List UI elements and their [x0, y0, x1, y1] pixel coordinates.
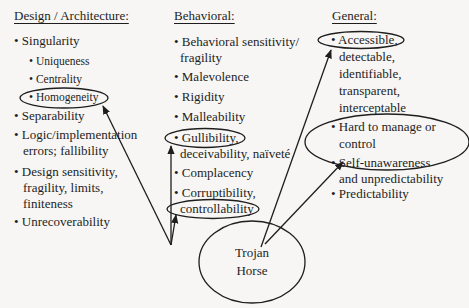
- trojan-horse-label-line1: Trojan: [222, 244, 282, 262]
- item-design-sensitivity-line3: finiteness: [23, 196, 73, 212]
- item-accessible-line2: detectable,: [339, 49, 395, 65]
- item-singularity: • Singularity: [14, 33, 80, 49]
- item-behavioral-sensitivity-line1: • Behavioral sensitivity/: [174, 34, 299, 50]
- item-design-sensitivity-line1: • Design sensitivity,: [14, 164, 118, 180]
- arrow-to-controllability: [171, 215, 176, 245]
- item-separability: • Separability: [14, 108, 85, 124]
- item-gullibility-line1: • Gullibility,: [174, 130, 238, 146]
- item-malevolence: • Malevolence: [174, 69, 249, 85]
- design-architecture-header: Design / Architecture:: [14, 8, 129, 24]
- trojan-horse-label-line2: Horse: [222, 262, 282, 280]
- item-accessible-line5: interceptable: [339, 100, 406, 116]
- item-malleability: • Malleability: [174, 109, 245, 125]
- trojan-horse-node-label: Trojan Horse: [222, 244, 282, 280]
- item-behavioral-sensitivity-line2: fragility: [180, 50, 222, 66]
- item-uniqueness: • Uniqueness: [29, 53, 90, 69]
- item-hard-to-manage-line1: • Hard to manage or: [331, 119, 436, 135]
- item-hard-to-manage-line2: control: [339, 136, 376, 152]
- item-self-unawareness-line1: • Self-unawareness: [331, 155, 431, 171]
- item-accessible-line4: transparent,: [339, 83, 400, 99]
- behavioral-header: Behavioral:: [174, 8, 235, 24]
- item-gullibility-line2: deceivability, naïveté: [180, 146, 290, 162]
- item-logic-implementation-line2: errors; fallibility: [23, 143, 109, 159]
- item-logic-implementation-line1: • Logic/implementation: [14, 127, 137, 143]
- item-predictability: • Predictability: [331, 186, 409, 202]
- item-accessible-line3: identifiable,: [339, 66, 401, 82]
- item-design-sensitivity-line2: fragility, limits,: [23, 180, 103, 196]
- item-homogeneity: • Homogeneity: [29, 89, 99, 105]
- item-accessible-line1: • Accessible,: [331, 32, 398, 48]
- item-rigidity: • Rigidity: [174, 89, 224, 105]
- trojan-horse-vulnerability-diagram: Design / Architecture: • Singularity • U…: [0, 0, 469, 308]
- item-self-unawareness-line2: and unpredictability: [339, 171, 443, 187]
- item-unrecoverability: • Unrecoverability: [14, 214, 110, 230]
- general-header: General:: [332, 8, 377, 24]
- item-centrality: • Centrality: [29, 71, 82, 87]
- item-corruptibility-line2: controllability: [180, 201, 254, 217]
- item-complacency: • Complacency: [174, 165, 253, 181]
- item-corruptibility-line1: • Corruptibility,: [174, 185, 256, 201]
